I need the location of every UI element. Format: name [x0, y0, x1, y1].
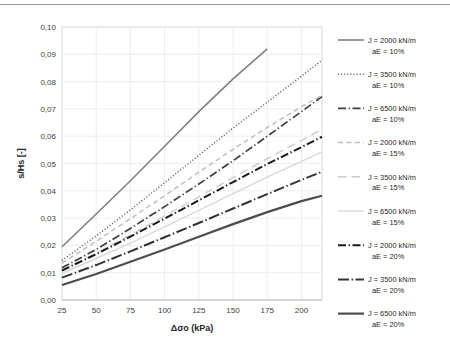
legend-label-line2: aE = 10% — [372, 81, 405, 90]
legend-label-line1: J = 2000 kN/m — [368, 36, 416, 45]
legend-item[interactable]: J = 2000 kN/maE = 10% — [338, 36, 416, 56]
x-axis-tick-label: 50 — [92, 306, 101, 315]
legend-label-line1: J = 3500 kN/m — [368, 70, 416, 79]
legend-label-line2: aE = 15% — [372, 218, 405, 227]
y-axis-title: s/Hs [-] — [16, 148, 26, 179]
legend-item[interactable]: J = 6500 kN/maE = 10% — [338, 104, 416, 124]
legend-label-line2: aE = 20% — [372, 252, 405, 261]
y-axis-tick-label: 0,03 — [40, 214, 56, 223]
legend-item[interactable]: J = 3500 kN/maE = 15% — [338, 173, 416, 193]
legend-label-line1: J = 3500 kN/m — [368, 275, 416, 284]
y-axis-tick-label: 0,07 — [40, 105, 56, 114]
legend-item[interactable]: J = 6500 kN/maE = 20% — [338, 309, 416, 329]
y-axis-tick-label: 0,10 — [40, 23, 56, 32]
legend-label-line2: aE = 10% — [372, 115, 405, 124]
y-axis-tick-label: 0,06 — [40, 132, 56, 141]
y-axis-tick-label: 0,02 — [40, 241, 56, 250]
x-axis-tick-label: 25 — [58, 306, 67, 315]
legend-item[interactable]: J = 2000 kN/maE = 20% — [338, 241, 416, 261]
x-axis-title: Δσo (kPa) — [171, 323, 214, 333]
y-axis-tick-label: 0,08 — [40, 78, 56, 87]
legend-label-line1: J = 2000 kN/m — [368, 138, 416, 147]
y-axis-tick-label: 0,00 — [40, 296, 56, 305]
legend-label-line2: aE = 20% — [372, 320, 405, 329]
x-axis-tick-labels: 255075100125150175200 — [58, 306, 309, 315]
y-axis-tick-label: 0,04 — [40, 187, 56, 196]
y-axis-tick-label: 0,09 — [40, 50, 56, 59]
legend-label-line2: aE = 20% — [372, 286, 405, 295]
legend-item[interactable]: J = 6500 kN/maE = 15% — [338, 207, 416, 227]
x-axis-tick-label: 200 — [295, 306, 309, 315]
chart-figure: 0,000,010,020,030,040,050,060,070,080,09… — [0, 0, 450, 363]
legend-label-line1: J = 2000 kN/m — [368, 241, 416, 250]
legend-label-line1: J = 6500 kN/m — [368, 207, 416, 216]
x-axis-tick-label: 75 — [126, 306, 135, 315]
legend-item[interactable]: J = 3500 kN/maE = 10% — [338, 70, 416, 90]
x-axis-tick-label: 175 — [261, 306, 275, 315]
legend: J = 2000 kN/maE = 10%J = 3500 kN/maE = 1… — [338, 36, 416, 329]
legend-label-line2: aE = 15% — [372, 149, 405, 158]
y-axis-tick-label: 0,01 — [40, 269, 56, 278]
legend-label-line1: J = 6500 kN/m — [368, 104, 416, 113]
x-axis-tick-label: 100 — [158, 306, 172, 315]
legend-item[interactable]: J = 2000 kN/maE = 15% — [338, 138, 416, 158]
line-chart: 0,000,010,020,030,040,050,060,070,080,09… — [0, 0, 450, 363]
legend-label-line2: aE = 15% — [372, 183, 405, 192]
y-axis-tick-labels: 0,000,010,020,030,040,050,060,070,080,09… — [40, 23, 56, 305]
legend-item[interactable]: J = 3500 kN/maE = 20% — [338, 275, 416, 295]
y-axis-tick-label: 0,05 — [40, 160, 56, 169]
legend-label-line1: J = 3500 kN/m — [368, 173, 416, 182]
x-axis-tick-label: 125 — [192, 306, 206, 315]
legend-label-line1: J = 6500 kN/m — [368, 309, 416, 318]
x-axis-tick-label: 150 — [226, 306, 240, 315]
legend-label-line2: aE = 10% — [372, 47, 405, 56]
